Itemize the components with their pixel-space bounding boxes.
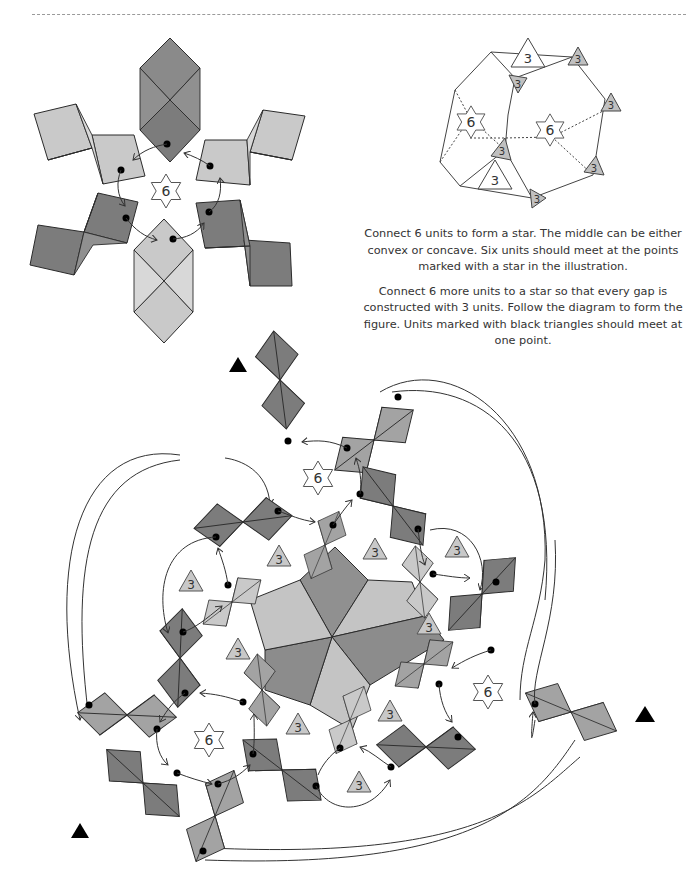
unit-bottom bbox=[134, 219, 193, 343]
svg-text:3: 3 bbox=[275, 553, 283, 567]
three-badge: 3 bbox=[363, 538, 387, 560]
svg-text:3: 3 bbox=[453, 544, 461, 558]
three-badge: 3 bbox=[445, 536, 469, 558]
svg-text:6: 6 bbox=[467, 114, 476, 130]
three-badge: 3 bbox=[347, 771, 371, 793]
svg-text:6: 6 bbox=[162, 183, 171, 199]
unit-upper-left bbox=[34, 104, 145, 184]
star-badge-6: 6 bbox=[151, 174, 180, 208]
star-badge-6: 6 bbox=[303, 461, 332, 495]
three-badge-outlined: 3 bbox=[511, 38, 545, 67]
black-triangle-marker bbox=[229, 357, 247, 372]
unit-top bbox=[140, 38, 200, 162]
three-badge-shaded: 3 bbox=[568, 47, 588, 65]
svg-text:6: 6 bbox=[314, 470, 323, 486]
instructions: Connect 6 units to form a star. The midd… bbox=[362, 226, 684, 358]
svg-text:3: 3 bbox=[355, 779, 363, 793]
svg-text:6: 6 bbox=[484, 684, 493, 700]
unit bbox=[525, 684, 616, 741]
unit bbox=[233, 326, 328, 433]
svg-text:3: 3 bbox=[425, 621, 433, 635]
svg-text:3: 3 bbox=[534, 194, 540, 205]
svg-text:3: 3 bbox=[515, 79, 521, 90]
svg-text:3: 3 bbox=[608, 100, 614, 111]
three-badge: 3 bbox=[179, 570, 203, 592]
figure-full-assembly: 6 6 6 3 3 3 3 3 3 3 3 3 bbox=[67, 326, 655, 861]
svg-text:3: 3 bbox=[371, 546, 379, 560]
svg-text:3: 3 bbox=[294, 721, 302, 735]
star-badge-6: 6 bbox=[194, 723, 223, 757]
instruction-paragraph-1: Connect 6 units to form a star. The midd… bbox=[362, 226, 684, 276]
unit-upper-right bbox=[196, 110, 305, 185]
svg-text:3: 3 bbox=[524, 51, 532, 66]
svg-text:3: 3 bbox=[491, 173, 499, 188]
svg-text:3: 3 bbox=[386, 708, 394, 722]
three-badge: 3 bbox=[378, 700, 402, 722]
figure-polyhedron: 3 3 3 3 3 3 3 3 6 6 bbox=[440, 38, 621, 208]
black-triangle-marker bbox=[71, 823, 89, 838]
svg-text:6: 6 bbox=[205, 732, 214, 748]
three-badge: 3 bbox=[267, 545, 291, 567]
instruction-paragraph-2: Connect 6 more units to a star so that e… bbox=[362, 284, 684, 350]
svg-text:3: 3 bbox=[234, 646, 242, 660]
svg-text:3: 3 bbox=[591, 163, 597, 174]
unit bbox=[231, 731, 334, 810]
svg-text:3: 3 bbox=[575, 54, 581, 65]
three-badge: 3 bbox=[226, 638, 250, 660]
origami-assembly-diagrams: 6 3 3 3 3 3 3 3 3 6 6 bbox=[0, 0, 686, 885]
unit-lower-left bbox=[30, 193, 138, 275]
unit bbox=[339, 459, 446, 554]
star-badge-6: 6 bbox=[473, 675, 502, 709]
svg-text:6: 6 bbox=[546, 122, 555, 138]
svg-text:3: 3 bbox=[187, 578, 195, 592]
figure-star-assembly: 6 bbox=[30, 38, 305, 343]
unit bbox=[90, 741, 195, 826]
three-badge: 3 bbox=[286, 713, 310, 735]
unit-lower-right bbox=[196, 200, 292, 286]
black-triangle-marker bbox=[635, 706, 655, 722]
svg-text:3: 3 bbox=[499, 146, 505, 157]
